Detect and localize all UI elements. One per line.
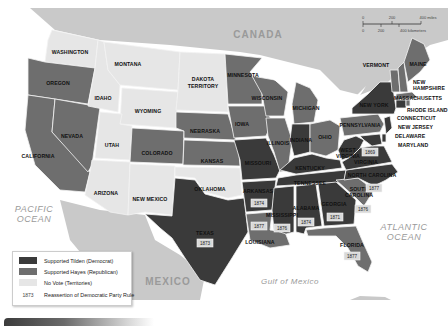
svg-text:ILLINOIS: ILLINOIS (267, 140, 290, 146)
svg-text:LOUISIANA: LOUISIANA (245, 239, 275, 245)
svg-text:NEW JERSEY: NEW JERSEY (398, 124, 433, 130)
legend-item-tilden: Supported Tilden (Democrat) (19, 256, 113, 265)
state-delaware (382, 134, 386, 142)
svg-text:MAINE: MAINE (409, 61, 427, 67)
label-gulf: Gulf of Mexico (261, 277, 319, 286)
svg-text:VERMONT: VERMONT (363, 62, 390, 68)
legend-item-reassertion: 1873 Reassertion of Democratic Party Rul… (19, 290, 134, 299)
map-legend: Supported Tilden (Democrat) Supported Ha… (12, 251, 132, 306)
svg-text:IDAHO: IDAHO (94, 95, 111, 101)
svg-text:COLORADO: COLORADO (141, 150, 172, 156)
label-pacific-2: OCEAN (17, 214, 52, 224)
svg-text:1874: 1874 (254, 201, 265, 206)
legend-swatch-hayes (19, 268, 37, 275)
svg-text:WYOMING: WYOMING (135, 108, 162, 114)
svg-text:400 kilometers: 400 kilometers (400, 28, 426, 33)
svg-text:IOWA: IOWA (235, 121, 249, 127)
svg-text:ARIZONA: ARIZONA (94, 190, 118, 196)
state-dakota (176, 52, 228, 112)
svg-text:MASSACHUSETTS: MASSACHUSETTS (394, 95, 442, 101)
svg-text:DELAWARE: DELAWARE (395, 133, 426, 139)
svg-text:OREGON: OREGON (46, 80, 70, 86)
svg-text:KANSAS: KANSAS (201, 158, 224, 164)
svg-text:WASHINGTON: WASHINGTON (52, 49, 89, 55)
legend-label-reassertion: Reassertion of Democratic Party Rule (44, 292, 134, 298)
svg-text:FLORIDA: FLORIDA (340, 242, 364, 248)
svg-text:MISSISSIPPI: MISSISSIPPI (266, 212, 298, 218)
svg-text:OHIO: OHIO (318, 134, 332, 140)
svg-text:MONTANA: MONTANA (115, 61, 142, 67)
legend-label-hayes: Supported Hayes (Republican) (44, 269, 118, 275)
state-colorado (130, 128, 184, 164)
svg-text:1871: 1871 (330, 215, 341, 220)
svg-text:MARYLAND: MARYLAND (398, 142, 428, 148)
svg-text:GEORGIA: GEORGIA (321, 201, 346, 207)
svg-text:CAROLINA: CAROLINA (345, 192, 373, 198)
svg-text:NORTH CAROLINA: NORTH CAROLINA (348, 172, 397, 178)
svg-text:TERRITORY: TERRITORY (188, 83, 219, 89)
svg-text:TEXAS: TEXAS (196, 230, 214, 236)
legend-year-sample: 1873 (19, 292, 37, 298)
svg-text:TENNESSEE: TENNESSEE (294, 180, 327, 186)
svg-text:RHODE ISLAND: RHODE ISLAND (407, 107, 448, 113)
label-mexico: MEXICO (145, 276, 190, 287)
svg-text:KENTUCKY: KENTUCKY (295, 165, 325, 171)
svg-text:MISSOURI: MISSOURI (245, 160, 272, 166)
svg-text:DAKOTA: DAKOTA (192, 76, 215, 82)
svg-text:VIRGINIA: VIRGINIA (354, 159, 378, 165)
svg-text:CONNECTICUT: CONNECTICUT (397, 115, 437, 121)
svg-text:200: 200 (378, 28, 385, 33)
svg-text:ARKANSAS: ARKANSAS (243, 188, 274, 194)
svg-text:400 miles: 400 miles (419, 15, 436, 20)
state-newmexico (128, 164, 175, 215)
legend-item-novote: No Vote (Territories) (19, 278, 92, 287)
svg-text:OKLAHOMA: OKLAHOMA (194, 186, 225, 192)
bottom-gradient-bar (4, 318, 154, 326)
svg-text:NEBRASKA: NEBRASKA (190, 128, 220, 134)
svg-text:NEW MEXICO: NEW MEXICO (132, 196, 167, 202)
svg-text:1876: 1876 (358, 207, 369, 212)
svg-text:1877: 1877 (369, 186, 380, 191)
legend-label-novote: No Vote (Territories) (44, 280, 92, 286)
label-pacific: PACIFIC (15, 204, 53, 214)
svg-text:MICHIGAN: MICHIGAN (292, 105, 319, 111)
state-nebraska (176, 112, 236, 140)
svg-text:NEVADA: NEVADA (61, 133, 83, 139)
label-atlantic-2: OCEAN (387, 232, 422, 242)
svg-text:CALIFORNIA: CALIFORNIA (22, 153, 55, 159)
legend-swatch-tilden (19, 257, 37, 264)
state-connecticut (396, 100, 406, 108)
svg-text:UTAH: UTAH (105, 142, 120, 148)
svg-text:1877: 1877 (347, 254, 358, 259)
svg-text:ALABAMA: ALABAMA (293, 205, 320, 211)
svg-text:INDIANA: INDIANA (290, 137, 312, 143)
svg-text:MINNESOTA: MINNESOTA (227, 72, 259, 78)
label-canada: CANADA (233, 29, 282, 40)
svg-text:VIRGINIA: VIRGINIA (336, 153, 360, 159)
svg-text:1869: 1869 (365, 150, 376, 155)
legend-item-hayes: Supported Hayes (Republican) (19, 267, 118, 276)
svg-text:1873: 1873 (200, 241, 211, 246)
svg-text:1876: 1876 (277, 226, 288, 231)
svg-text:1877: 1877 (254, 224, 265, 229)
label-atlantic: ATLANTIC (380, 222, 428, 232)
svg-text:200: 200 (389, 15, 396, 20)
legend-swatch-novote (19, 279, 37, 286)
svg-text:HAMPSHIRE: HAMPSHIRE (413, 85, 445, 91)
svg-text:NEW YORK: NEW YORK (359, 102, 388, 108)
svg-text:WISCONSIN: WISCONSIN (252, 95, 283, 101)
legend-label-tilden: Supported Tilden (Democrat) (44, 258, 113, 264)
svg-text:PENNSYLVANIA: PENNSYLVANIA (339, 122, 380, 128)
svg-text:1874: 1874 (301, 220, 312, 225)
